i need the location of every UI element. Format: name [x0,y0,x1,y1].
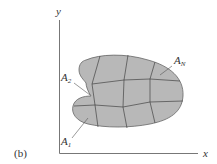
x-axis-label: x [202,147,208,159]
label-a2: A2 [60,71,72,85]
label-an: AN [173,54,186,68]
y-axis-label: y [55,5,61,17]
label-a1: A1 [60,135,71,149]
area-partition-diagram: y x (b) A1 A2 AN [0,0,217,164]
figure-caption: (b) [14,147,27,160]
region-shape [73,55,183,127]
